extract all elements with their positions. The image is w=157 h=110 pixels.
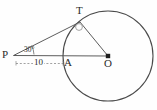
point-label-o: O xyxy=(104,58,112,69)
point-label-a: A xyxy=(64,57,72,68)
right-angle-marker-icon xyxy=(76,24,83,31)
geometry-figure: P T A O 30° 10 xyxy=(0,0,157,110)
measure-label-10: 10 xyxy=(33,58,44,67)
point-label-t: T xyxy=(76,5,83,16)
line-po xyxy=(14,56,109,57)
figure-canvas xyxy=(0,0,157,110)
radius-line-ot xyxy=(80,22,108,56)
angle-label-30: 30° xyxy=(24,46,35,54)
point-label-p: P xyxy=(2,49,8,60)
